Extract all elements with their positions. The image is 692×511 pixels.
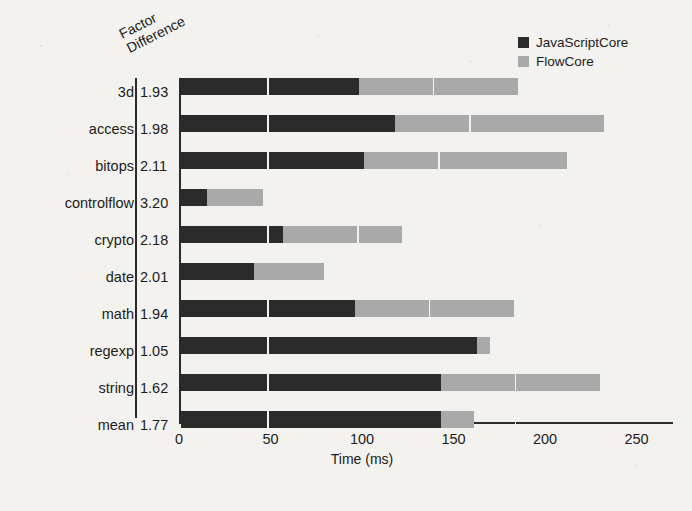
plot-area: Time (ms) 050100150200250 [179,72,679,422]
factor-value-date: 2.01 [140,270,180,285]
category-label-regexp: regexp [0,344,134,359]
bar-segment-javascriptcore-bitops [181,152,364,169]
x-tick-label-200: 200 [515,432,575,447]
legend-label-1: JavaScriptCore [536,36,628,50]
factor-value-access: 1.98 [140,122,180,137]
category-label-mean: mean [0,418,134,433]
factor-value-3d: 1.93 [140,85,180,100]
bar-segment-flowcore-crypto [283,226,402,243]
bar-segment-flowcore-string [441,374,600,391]
category-label-access: access [0,122,134,137]
factor-value-math: 1.94 [140,307,180,322]
legend-item-2: FlowCore [518,53,628,70]
category-label-bitops: bitops [0,159,134,174]
category-label-crypto: crypto [0,233,134,248]
factor-value-regexp: 1.05 [140,344,180,359]
x-tick-label-100: 100 [332,432,392,447]
category-label-math: math [0,307,134,322]
bar-segment-javascriptcore-crypto [181,226,283,243]
x-tick-label-50: 50 [241,432,301,447]
bar-segment-javascriptcore-math [181,300,355,317]
bar-segment-javascriptcore-regexp [181,337,477,354]
category-label-3d: 3d [0,85,134,100]
x-tick-label-0: 0 [149,432,209,447]
bar-segment-javascriptcore-date [181,263,254,280]
legend-swatch-flowcore [518,56,529,67]
benchmark-bar-chart-figure: Factor Difference 3daccessbitopscontrolf… [0,0,692,511]
bar-segment-flowcore-regexp [477,337,490,354]
bar-segment-flowcore-controlflow [207,189,264,206]
bar-segment-flowcore-bitops [364,152,567,169]
bar-segment-javascriptcore-controlflow [181,189,207,206]
label-column-divider [135,78,137,418]
legend-label-2: FlowCore [536,55,594,69]
category-label-column: 3daccessbitopscontrolflowcryptodatemathr… [0,0,134,511]
category-label-string: string [0,381,134,396]
factor-value-mean: 1.77 [140,418,180,433]
bar-segment-javascriptcore-access [181,115,395,132]
category-label-controlflow: controlflow [0,196,134,211]
legend-item-1: JavaScriptCore [518,34,628,51]
x-tick-label-250: 250 [607,432,667,447]
bar-segment-javascriptcore-3d [181,78,359,95]
bar-segment-javascriptcore-mean [181,411,441,428]
x-tick-label-150: 150 [424,432,484,447]
x-axis-title: Time (ms) [179,452,545,467]
legend-swatch-javascriptcore [518,37,529,48]
category-label-date: date [0,270,134,285]
bar-segment-flowcore-date [254,263,324,280]
bar-segment-flowcore-mean [441,411,474,428]
factor-value-string: 1.62 [140,381,180,396]
factor-value-bitops: 2.11 [140,159,180,174]
factor-value-controlflow: 3.20 [140,196,180,211]
bar-segment-javascriptcore-string [181,374,441,391]
factor-value-crypto: 2.18 [140,233,180,248]
bar-segment-flowcore-3d [359,78,518,95]
bar-segment-flowcore-math [355,300,514,317]
bar-segment-flowcore-access [395,115,604,132]
legend: JavaScriptCoreFlowCore [518,34,628,72]
